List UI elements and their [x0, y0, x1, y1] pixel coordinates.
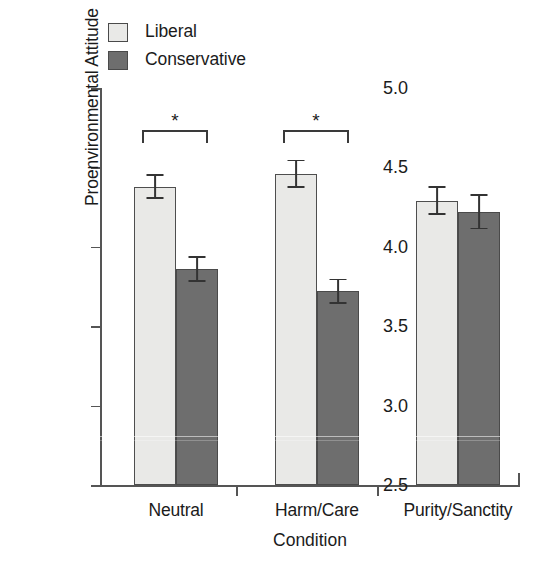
y-tick-label-3-5: 3.5	[362, 317, 408, 335]
errorbar-neutral-conservative	[176, 256, 218, 281]
bar-purity-conservative	[458, 212, 500, 485]
errorbar-purity-liberal	[416, 186, 458, 215]
bar-chart-figure: Liberal Conservative 5.0 4.5 4.0 3.5 3.0…	[0, 0, 539, 581]
y-axis-label: Proenvironmental Attitude	[82, 8, 103, 206]
errorbar-cap-bottom	[147, 197, 164, 199]
bar-neutral-liberal	[134, 187, 176, 486]
errorbar-cap-bottom	[189, 280, 206, 282]
x-axis-line	[100, 485, 520, 487]
y-tick-label-4-0: 4.0	[362, 238, 408, 256]
x-axis-right-cap	[518, 473, 520, 486]
bar-harmcare-liberal	[275, 174, 317, 485]
x-category-label-purity: Purity/Sanctity	[388, 500, 528, 521]
bar-neutral-conservative	[176, 269, 218, 485]
legend-swatch-liberal	[108, 23, 128, 42]
legend-item-conservative: Conservative	[108, 46, 318, 74]
bracket-left-leg	[142, 130, 144, 143]
plot-area: 5.0 4.5 4.0 3.5 3.0 2.5	[100, 88, 520, 485]
legend-label-conservative: Conservative	[145, 51, 246, 69]
x-tick-2	[377, 486, 379, 496]
errorbar-neutral-liberal	[134, 174, 176, 199]
y-tick-label-2-5: 2.5	[362, 476, 408, 494]
errorbar-stem	[196, 256, 198, 281]
bracket-right-leg	[347, 130, 349, 143]
errorbar-harmcare-conservative	[317, 279, 359, 304]
errorbar-cap-bottom	[330, 302, 347, 304]
bracket-left-leg	[283, 130, 285, 143]
y-tick-label-4-5: 4.5	[362, 158, 408, 176]
errorbar-cap-bottom	[471, 228, 488, 230]
significance-star-harmcare: *	[283, 111, 349, 130]
errorbar-cap-top	[288, 160, 305, 162]
errorbar-purity-conservative	[458, 194, 500, 229]
errorbar-cap-top	[330, 279, 347, 281]
y-tick-label-3-0: 3.0	[362, 397, 408, 415]
errorbar-stem	[154, 174, 156, 199]
y-tick-3-5	[91, 326, 100, 328]
x-category-label-harmcare: Harm/Care	[257, 500, 377, 521]
x-axis-label: Condition	[100, 530, 520, 551]
errorbar-stem	[436, 186, 438, 215]
bar-harmcare-conservative	[317, 291, 359, 485]
errorbar-stem	[337, 279, 339, 304]
significance-star-neutral: *	[142, 111, 208, 130]
errorbar-stem	[478, 194, 480, 229]
legend-swatch-conservative	[108, 51, 128, 70]
bracket-right-leg	[206, 130, 208, 143]
y-tick-3-0	[91, 406, 100, 408]
errorbar-cap-top	[147, 174, 164, 176]
errorbar-cap-top	[189, 256, 206, 258]
x-category-label-neutral: Neutral	[116, 500, 236, 521]
errorbar-cap-top	[471, 194, 488, 196]
errorbar-cap-bottom	[288, 186, 305, 188]
errorbar-cap-bottom	[429, 213, 446, 215]
legend-label-liberal: Liberal	[145, 23, 197, 41]
bar-purity-liberal	[416, 201, 458, 485]
y-tick-4-0	[91, 247, 100, 249]
y-tick-2-5	[91, 485, 100, 487]
errorbar-cap-top	[429, 186, 446, 188]
y-tick-label-5-0: 5.0	[362, 79, 408, 97]
x-tick-1	[236, 486, 238, 496]
legend-item-liberal: Liberal	[108, 18, 318, 46]
errorbar-stem	[295, 160, 297, 189]
chart-legend: Liberal Conservative	[108, 18, 318, 74]
errorbar-harmcare-liberal	[275, 160, 317, 189]
